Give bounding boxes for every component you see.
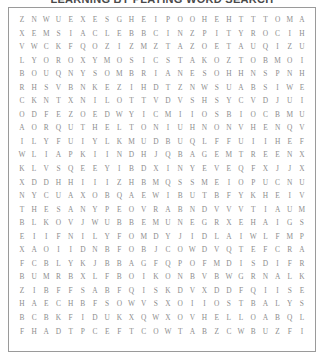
grid-cell[interactable]: X [259,162,271,176]
grid-cell[interactable]: W [247,230,259,244]
grid-cell[interactable]: E [113,27,125,41]
grid-cell[interactable]: U [296,108,308,122]
grid-cell[interactable]: F [16,257,28,271]
grid-cell[interactable]: Z [65,108,77,122]
grid-cell[interactable]: O [199,40,211,54]
grid-cell[interactable]: I [65,243,77,257]
grid-cell[interactable]: V [150,94,162,108]
grid-cell[interactable]: K [16,162,28,176]
grid-cell[interactable]: R [247,27,259,41]
grid-cell[interactable]: J [272,162,284,176]
grid-cell[interactable]: R [247,148,259,162]
grid-cell[interactable]: U [247,40,259,54]
grid-cell[interactable]: U [284,203,296,217]
grid-cell[interactable]: Q [138,311,150,325]
grid-cell[interactable]: Q [53,67,65,81]
grid-cell[interactable]: V [296,189,308,203]
grid-cell[interactable]: O [174,311,186,325]
grid-cell[interactable]: T [126,325,138,339]
grid-cell[interactable]: V [199,270,211,284]
grid-cell[interactable]: V [223,203,235,217]
grid-cell[interactable]: B [16,216,28,230]
grid-cell[interactable]: A [186,148,198,162]
grid-cell[interactable]: H [247,216,259,230]
grid-cell[interactable]: P [77,325,89,339]
grid-cell[interactable]: U [259,176,271,190]
grid-cell[interactable]: B [272,311,284,325]
grid-cell[interactable]: Q [186,135,198,149]
grid-cell[interactable]: P [174,257,186,271]
grid-cell[interactable]: V [174,94,186,108]
grid-cell[interactable]: B [272,108,284,122]
grid-cell[interactable]: B [126,67,138,81]
grid-cell[interactable]: O [101,67,113,81]
grid-cell[interactable]: B [174,148,186,162]
grid-cell[interactable]: O [211,54,223,68]
grid-cell[interactable]: Q [162,176,174,190]
grid-cell[interactable]: R [40,121,52,135]
grid-cell[interactable]: D [211,284,223,298]
grid-cell[interactable]: U [174,135,186,149]
grid-cell[interactable]: D [150,135,162,149]
grid-cell[interactable]: F [223,189,235,203]
grid-cell[interactable]: E [223,162,235,176]
grid-cell[interactable]: D [150,81,162,95]
grid-cell[interactable]: O [126,243,138,257]
grid-cell[interactable]: S [223,297,235,311]
grid-cell[interactable]: V [211,243,223,257]
grid-cell[interactable]: I [40,148,52,162]
grid-cell[interactable]: H [296,27,308,41]
grid-cell[interactable]: U [284,94,296,108]
grid-cell[interactable]: V [186,284,198,298]
grid-cell[interactable]: S [53,162,65,176]
grid-cell[interactable]: I [186,108,198,122]
grid-cell[interactable]: B [16,270,28,284]
grid-cell[interactable]: A [28,243,40,257]
grid-cell[interactable]: E [211,176,223,190]
grid-cell[interactable]: N [174,67,186,81]
grid-cell[interactable]: O [272,13,284,27]
grid-cell[interactable]: R [247,270,259,284]
grid-cell[interactable]: Y [77,67,89,81]
grid-cell[interactable]: L [272,297,284,311]
grid-cell[interactable]: O [211,121,223,135]
grid-cell[interactable]: O [89,40,101,54]
grid-cell[interactable]: I [101,148,113,162]
grid-cell[interactable]: I [272,40,284,54]
grid-cell[interactable]: U [296,40,308,54]
grid-cell[interactable]: F [259,243,271,257]
grid-cell[interactable]: F [65,311,77,325]
grid-cell[interactable]: E [138,189,150,203]
grid-cell[interactable]: S [296,297,308,311]
grid-cell[interactable]: Z [284,40,296,54]
grid-cell[interactable]: O [89,189,101,203]
grid-cell[interactable]: F [272,230,284,244]
grid-cell[interactable]: N [65,67,77,81]
grid-cell[interactable]: V [16,40,28,54]
grid-cell[interactable]: T [235,13,247,27]
grid-cell[interactable]: D [174,284,186,298]
grid-cell[interactable]: E [259,148,271,162]
grid-cell[interactable]: Q [162,257,174,271]
grid-cell[interactable]: B [247,325,259,339]
grid-cell[interactable]: E [211,13,223,27]
grid-cell[interactable]: H [199,13,211,27]
grid-cell[interactable]: P [65,148,77,162]
grid-cell[interactable]: V [40,162,52,176]
grid-cell[interactable]: L [101,135,113,149]
grid-cell[interactable]: I [138,270,150,284]
grid-cell[interactable]: E [259,121,271,135]
grid-cell[interactable]: E [296,81,308,95]
grid-cell[interactable]: T [53,94,65,108]
grid-cell[interactable]: G [138,257,150,271]
grid-cell[interactable]: J [150,243,162,257]
grid-cell[interactable]: H [247,121,259,135]
grid-cell[interactable]: E [89,13,101,27]
grid-cell[interactable]: B [223,108,235,122]
grid-cell[interactable]: T [259,13,271,27]
grid-cell[interactable]: I [138,284,150,298]
grid-cell[interactable]: N [284,67,296,81]
grid-cell[interactable]: L [53,257,65,271]
grid-cell[interactable]: T [162,40,174,54]
grid-cell[interactable]: B [113,216,125,230]
